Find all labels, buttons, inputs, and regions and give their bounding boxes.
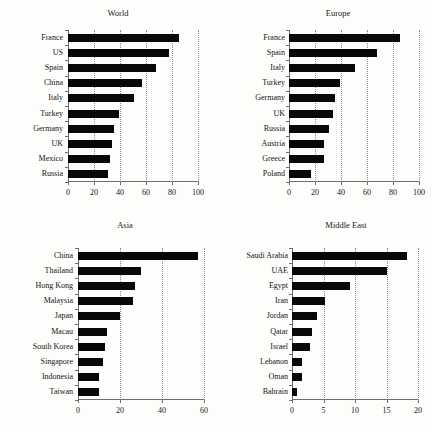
y-axis-tick (286, 136, 289, 137)
y-axis-tick (75, 263, 78, 264)
y-axis-tick (65, 76, 68, 77)
bar (289, 110, 333, 118)
bar (78, 388, 99, 396)
x-axis-label: 5 (309, 406, 339, 415)
y-axis-tick (75, 339, 78, 340)
y-axis-tick (65, 60, 68, 61)
y-axis-tick (65, 106, 68, 107)
x-axis-tick (419, 182, 420, 185)
category-label: South Korea (1, 342, 73, 351)
category-label: Thailand (1, 266, 73, 275)
bar (68, 125, 114, 133)
plot-area (292, 248, 418, 400)
figure-grid: WorldFranceUSSpainChinaItalyTurkeyGerman… (0, 0, 433, 430)
chart-title: World (107, 8, 128, 19)
x-axis-tick (393, 182, 394, 185)
x-axis-label: 20 (403, 406, 433, 415)
category-label: Poland (222, 169, 285, 178)
bar (78, 312, 120, 320)
chart-panel-world: WorldFranceUSSpainChinaItalyTurkeyGerman… (0, 0, 216, 212)
chart-panel-middle-east: Middle EastSaudi ArabiaUAEEgyptIranJorda… (216, 212, 433, 430)
bar (289, 155, 324, 163)
y-axis-tick (289, 294, 292, 295)
bar (289, 125, 329, 133)
category-label: Macau (1, 327, 73, 336)
gridline (204, 248, 205, 400)
bar (292, 267, 387, 275)
x-axis-tick (120, 400, 121, 403)
x-axis-tick (355, 400, 356, 403)
x-axis-line (289, 181, 419, 182)
category-label: Jordan (218, 311, 288, 320)
x-axis-label: 100 (183, 188, 213, 197)
y-axis-tick (289, 309, 292, 310)
x-axis-label: 10 (340, 406, 370, 415)
y-axis-tick (289, 370, 292, 371)
category-label: Iran (218, 296, 288, 305)
bar (78, 297, 133, 305)
category-label: UK (222, 109, 285, 118)
x-axis-label: 20 (105, 406, 135, 415)
category-label: Spain (222, 48, 285, 57)
x-axis-tick (78, 400, 79, 403)
category-label: Russia (5, 169, 63, 178)
bar (289, 49, 377, 57)
x-axis-tick (387, 400, 388, 403)
chart-title: Asia (117, 220, 133, 231)
y-axis-tick (75, 294, 78, 295)
x-axis-tick (418, 400, 419, 403)
bar (68, 49, 169, 57)
y-axis-tick (65, 91, 68, 92)
category-label: Austria (222, 139, 285, 148)
bar (292, 373, 302, 381)
bar (78, 282, 135, 290)
x-axis-label: 0 (277, 406, 307, 415)
y-axis-tick (286, 30, 289, 31)
category-label: Bahrain (218, 387, 288, 396)
gridline (418, 248, 419, 400)
category-label: France (5, 33, 63, 42)
y-axis-tick (75, 248, 78, 249)
x-axis-label: 60 (189, 406, 219, 415)
x-axis-tick (94, 182, 95, 185)
category-label: Germany (5, 124, 63, 133)
plot-area (289, 30, 419, 182)
category-label: Japan (1, 311, 73, 320)
y-axis-tick (75, 354, 78, 355)
bar (289, 170, 311, 178)
category-label: Turkey (5, 109, 63, 118)
x-axis-tick (146, 182, 147, 185)
y-axis-tick (286, 106, 289, 107)
y-axis-tick (289, 324, 292, 325)
y-axis-tick (65, 30, 68, 31)
category-label: Israel (218, 342, 288, 351)
y-axis-tick (286, 152, 289, 153)
chart-panel-europe: EuropeFranceSpainItalyTurkeyGermanyUKRus… (216, 0, 433, 212)
x-axis-tick (292, 400, 293, 403)
gridline (198, 30, 199, 182)
y-axis-tick (286, 121, 289, 122)
category-label: Oman (218, 372, 288, 381)
y-axis-tick (289, 248, 292, 249)
x-axis-tick (289, 182, 290, 185)
bar (289, 94, 335, 102)
y-axis-tick (75, 278, 78, 279)
y-axis-tick (286, 45, 289, 46)
y-axis-tick (289, 263, 292, 264)
category-label: Taiwan (1, 387, 73, 396)
category-label: China (5, 78, 63, 87)
bar (78, 328, 107, 336)
y-axis-tick (75, 385, 78, 386)
bar (292, 358, 302, 366)
x-axis-tick (367, 182, 368, 185)
category-label: Saudi Arabia (218, 251, 288, 260)
bar (68, 94, 134, 102)
y-axis-tick (289, 354, 292, 355)
bar (289, 140, 324, 148)
category-label: Singapore (1, 357, 73, 366)
x-axis-tick (204, 400, 205, 403)
bar (289, 64, 355, 72)
category-label: Russia (222, 124, 285, 133)
y-axis-tick (286, 167, 289, 168)
x-axis-tick (341, 182, 342, 185)
